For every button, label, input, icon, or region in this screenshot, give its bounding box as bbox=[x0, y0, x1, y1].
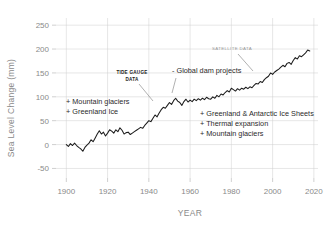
y-tick-label: 100 bbox=[36, 93, 50, 102]
annotation-greenland-ice: + Greenland Ice bbox=[66, 107, 118, 116]
y-axis-tick-labels: -50050100150200250 bbox=[36, 21, 50, 173]
chart-svg: -50050100150200250 190019201940196019802… bbox=[0, 0, 332, 225]
y-tick-label: 150 bbox=[36, 69, 50, 78]
x-axis-tick-labels: 1900192019401960198020002020 bbox=[57, 187, 323, 196]
x-tick-label: 2000 bbox=[264, 187, 282, 196]
annotation-ice-sheets: + Greenland & Antarctic Ice Sheets bbox=[200, 109, 314, 118]
y-tick-label: -50 bbox=[37, 164, 49, 173]
annotation-global-dam-projects: - Global dam projects bbox=[172, 66, 242, 75]
x-axis-title: YEAR bbox=[178, 208, 202, 218]
x-tick-label: 1920 bbox=[99, 187, 117, 196]
y-tick-label: 50 bbox=[40, 117, 49, 126]
dam-leader-line bbox=[172, 78, 176, 93]
annotation-thermal-expansion: + Thermal expansion bbox=[200, 119, 268, 128]
y-tick-label: 250 bbox=[36, 21, 50, 30]
annotation-mountain-glaciers-left: + Mountain glaciers bbox=[66, 97, 130, 106]
y-tick-label: 200 bbox=[36, 45, 50, 54]
y-tick-label: 0 bbox=[45, 141, 50, 150]
annotation-tide-gauge-line2: DATA bbox=[125, 77, 139, 82]
annotation-mountain-glaciers-right: + Mountain glaciers bbox=[200, 129, 264, 138]
annotation-tide-gauge-line1: TIDE GAUGE bbox=[116, 70, 147, 75]
x-tick-label: 2020 bbox=[305, 187, 323, 196]
x-tick-label: 1940 bbox=[140, 187, 158, 196]
x-tick-label: 1980 bbox=[222, 187, 240, 196]
x-tick-label: 1900 bbox=[57, 187, 75, 196]
annotation-satellite-data: SATELLITE DATA bbox=[212, 46, 252, 51]
y-axis-title: Sea Level Change (mm) bbox=[6, 59, 16, 157]
sea-level-chart: -50050100150200250 190019201940196019802… bbox=[0, 0, 332, 225]
x-tick-label: 1960 bbox=[181, 187, 199, 196]
tide-gauge-leader-line bbox=[139, 84, 153, 101]
